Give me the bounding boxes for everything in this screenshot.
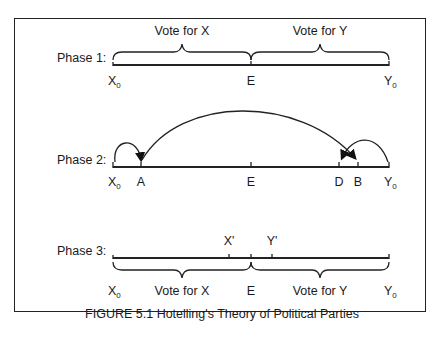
point-e: E xyxy=(247,175,255,189)
point-d: D xyxy=(334,175,343,189)
point-a: A xyxy=(137,175,146,189)
point-y0: Y0 xyxy=(384,284,397,300)
point-x-prime: X' xyxy=(224,234,235,248)
point-e: E xyxy=(247,74,255,88)
phase-2-label: Phase 2: xyxy=(57,153,106,167)
point-y0: Y0 xyxy=(384,175,397,191)
point-x0: X0 xyxy=(108,284,121,300)
vote-for-x-label: Vote for X xyxy=(155,24,211,38)
vote-for-x-label: Vote for X xyxy=(155,284,211,298)
point-x0: X0 xyxy=(108,175,121,191)
point-y0: Y0 xyxy=(384,74,397,90)
phase-3-label: Phase 3: xyxy=(57,244,106,258)
phase-1-label: Phase 1: xyxy=(57,51,106,65)
point-y-prime: Y' xyxy=(267,234,278,248)
figure-caption: FIGURE 5.1 Hotelling's Theory of Politic… xyxy=(85,307,359,321)
vote-for-y-label: Vote for Y xyxy=(293,284,348,298)
hotelling-diagram: Phase 1: Vote for X Vote for Y X0 E Y0 P… xyxy=(0,0,444,346)
point-x0: X0 xyxy=(108,74,121,90)
point-b: B xyxy=(354,175,362,189)
vote-for-y-label: Vote for Y xyxy=(293,24,348,38)
point-e: E xyxy=(247,284,255,298)
